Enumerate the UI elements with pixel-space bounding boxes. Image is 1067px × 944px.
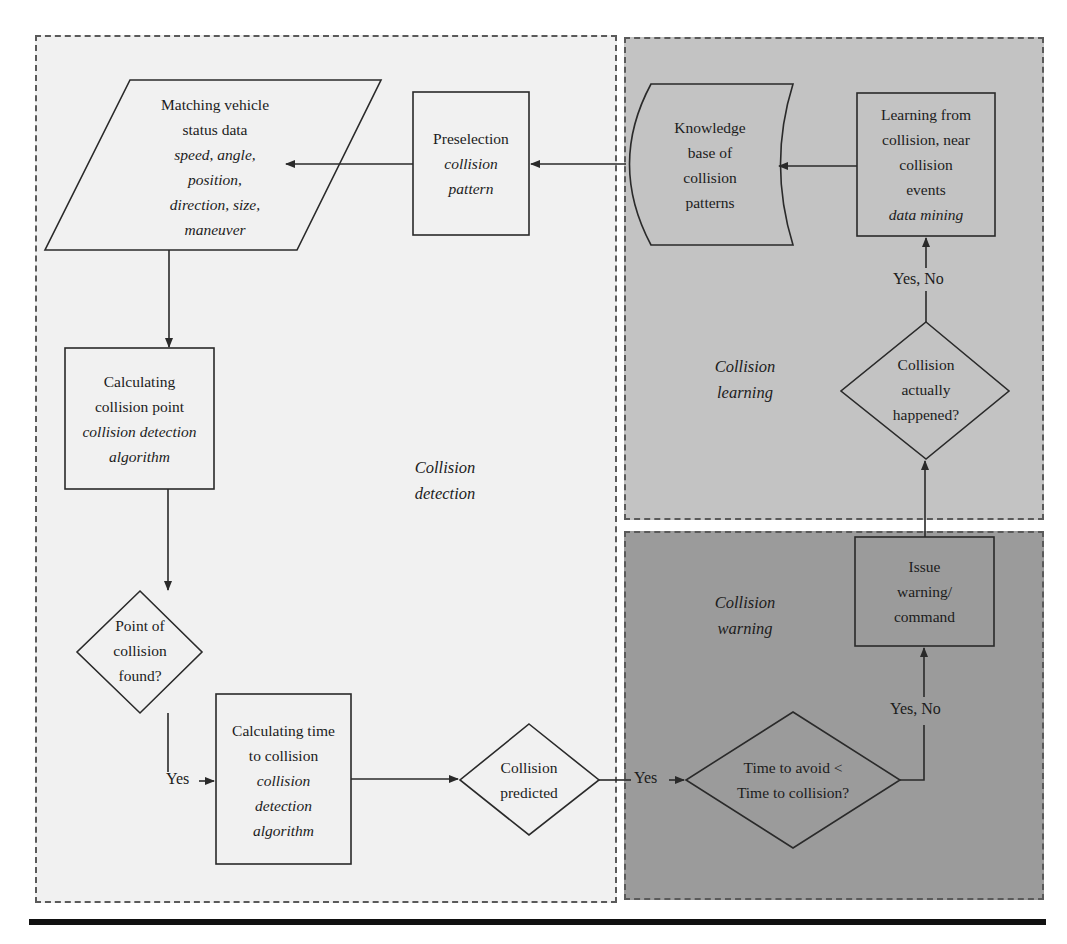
matching-vehicle-detail-1: speed, angle, <box>110 142 320 167</box>
point-found-title-1: Point of <box>90 613 190 638</box>
bottom-rule-divider <box>29 919 1046 925</box>
learning-title-1: Learning from <box>855 102 997 127</box>
collision-predicted-title-1: Collision <box>474 755 584 780</box>
learning-label-line-2: learning <box>700 380 790 406</box>
learning-detail-1: data mining <box>855 202 997 227</box>
matching-vehicle-node: Matching vehicle status data speed, angl… <box>110 92 320 242</box>
point-found-title-3: found? <box>90 663 190 688</box>
preselection-detail-2: pattern <box>413 176 529 201</box>
edge-avoid-to-issue <box>900 725 924 780</box>
edge-label-happened-yes-no: Yes, No <box>893 270 944 288</box>
learning-node: Learning from collision, near collision … <box>855 102 997 227</box>
detection-label-line-2: detection <box>400 481 490 507</box>
edge-label-found-yes: Yes <box>166 770 189 788</box>
matching-vehicle-title-2: status data <box>110 117 320 142</box>
issue-warning-title-3: command <box>855 604 994 629</box>
knowledge-base-node: Knowledge base of collision patterns <box>640 115 780 215</box>
matching-vehicle-detail-4: maneuver <box>110 217 320 242</box>
actually-happened-node: Collision actually happened? <box>870 352 982 427</box>
issue-warning-title-2: warning/ <box>855 579 994 604</box>
point-found-node: Point of collision found? <box>90 613 190 688</box>
time-to-avoid-node: Time to avoid < Time to collision? <box>708 755 878 805</box>
calc-point-title-1: Calculating <box>65 369 214 394</box>
learning-title-3: collision <box>855 152 997 177</box>
learning-region-label: Collision learning <box>700 354 790 406</box>
calc-point-detail-1: collision detection <box>65 419 214 444</box>
time-to-avoid-title-1: Time to avoid < <box>708 755 878 780</box>
calc-point-detail-2: algorithm <box>65 444 214 469</box>
learning-title-2: collision, near <box>855 127 997 152</box>
detection-region-label: Collision detection <box>400 455 490 507</box>
calc-collision-point-node: Calculating collision point collision de… <box>65 369 214 469</box>
calc-time-title-1: Calculating time <box>212 718 355 743</box>
actually-happened-title-1: Collision <box>870 352 982 377</box>
knowledge-base-title-2: base of <box>640 140 780 165</box>
collision-predicted-node: Collision predicted <box>474 755 584 805</box>
preselection-title: Preselection <box>413 126 529 151</box>
point-found-title-2: collision <box>90 638 190 663</box>
issue-warning-node: Issue warning/ command <box>855 554 994 629</box>
warning-region-label: Collision warning <box>700 590 790 642</box>
warning-label-line-1: Collision <box>700 590 790 616</box>
knowledge-base-title-4: patterns <box>640 190 780 215</box>
edge-label-avoid-yes-no: Yes, No <box>890 700 941 718</box>
detection-label-line-1: Collision <box>400 455 490 481</box>
edge-label-predicted-yes: Yes <box>634 769 657 787</box>
learning-title-4: events <box>855 177 997 202</box>
matching-vehicle-detail-2: position, <box>110 167 320 192</box>
matching-vehicle-title-1: Matching vehicle <box>110 92 320 117</box>
calc-time-title-2: to collision <box>212 743 355 768</box>
calc-time-node: Calculating time to collision collision … <box>212 718 355 843</box>
calc-point-title-2: collision point <box>65 394 214 419</box>
preselection-node: Preselection collision pattern <box>413 126 529 201</box>
actually-happened-title-2: actually <box>870 377 982 402</box>
calc-time-detail-1: collision <box>212 768 355 793</box>
knowledge-base-title-3: collision <box>640 165 780 190</box>
calc-time-detail-3: algorithm <box>212 818 355 843</box>
time-to-avoid-title-2: Time to collision? <box>708 780 878 805</box>
actually-happened-title-3: happened? <box>870 402 982 427</box>
issue-warning-title-1: Issue <box>855 554 994 579</box>
learning-label-line-1: Collision <box>700 354 790 380</box>
knowledge-base-title-1: Knowledge <box>640 115 780 140</box>
calc-time-detail-2: detection <box>212 793 355 818</box>
matching-vehicle-detail-3: direction, size, <box>110 192 320 217</box>
preselection-detail-1: collision <box>413 151 529 176</box>
collision-predicted-title-2: predicted <box>474 780 584 805</box>
warning-label-line-2: warning <box>700 616 790 642</box>
